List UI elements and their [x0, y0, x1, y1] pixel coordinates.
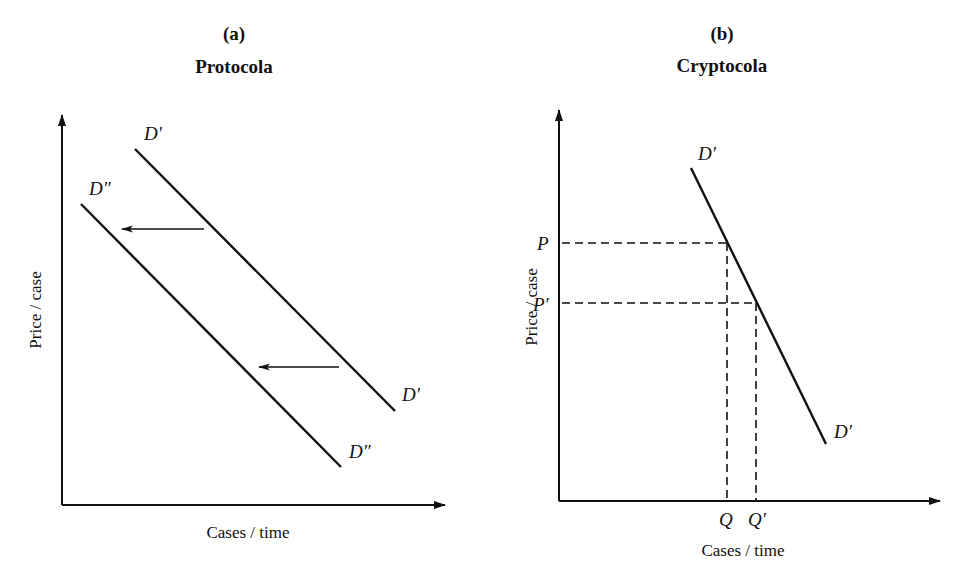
panel-a-d-double-prime-label-top: D″	[88, 178, 112, 199]
panel-b-price-p-label: P	[536, 233, 549, 254]
panel-b-curve-d-prime	[691, 168, 826, 444]
panel-b-label: (b)	[710, 23, 733, 45]
diagram-canvas: (a) Protocola Price / case Cases / time …	[0, 0, 953, 577]
panel-a-d-prime-label-top: D′	[143, 123, 163, 144]
panel-b-x-axis-label: Cases / time	[701, 541, 784, 560]
panel-a-y-axis-label: Price / case	[26, 271, 45, 348]
panel-a-x-axis-label: Cases / time	[206, 523, 289, 542]
panel-a: (a) Protocola Price / case Cases / time …	[26, 23, 445, 542]
panel-b-d-prime-label-bottom: D′	[833, 421, 853, 442]
panel-b: (b) Cryptocola Price / case Cases / time…	[522, 23, 940, 560]
panel-b-d-prime-label-top: D′	[697, 143, 717, 164]
panel-a-d-prime-label-bottom: D′	[401, 384, 421, 405]
panel-a-curve-d-prime	[135, 149, 395, 411]
panel-b-quantity-q-prime-label: Q′	[748, 509, 767, 530]
panel-b-price-p-prime-label: P′	[532, 294, 550, 315]
panel-a-title: Protocola	[195, 56, 273, 77]
panel-b-quantity-q-label: Q	[719, 509, 733, 530]
panel-a-curve-d-double-prime	[81, 204, 341, 467]
panel-a-label: (a)	[223, 23, 245, 45]
panel-b-title: Cryptocola	[677, 55, 768, 76]
panel-a-d-double-prime-label-bottom: D″	[348, 441, 372, 462]
